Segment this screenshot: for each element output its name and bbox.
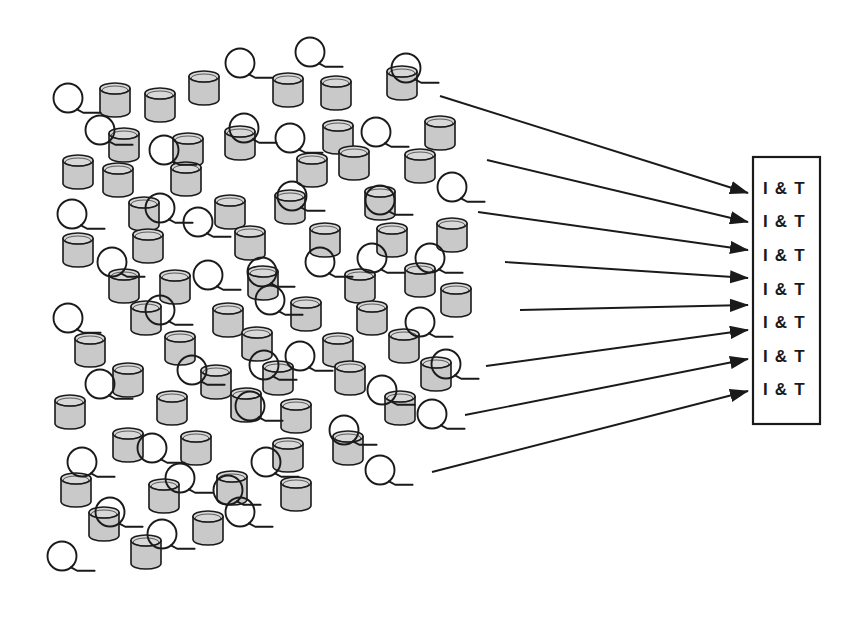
integration-test-row-label: I & T [763,280,814,300]
integration-test-row-label: I & T [763,313,814,333]
integration-test-row-label: I & T [763,179,814,199]
integration-test-row-label: I & T [763,347,814,367]
integration-test-row-label: I & T [763,380,814,400]
box-label-layer: I & TI & TI & TI & TI & TI & TI & T [0,0,857,618]
integration-test-row-label: I & T [763,246,814,266]
diagram-canvas: I & TI & TI & TI & TI & TI & TI & T [0,0,857,618]
integration-test-row-label: I & T [763,212,814,232]
